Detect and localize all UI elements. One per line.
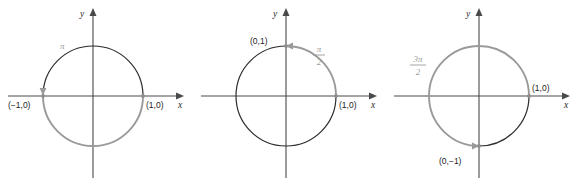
y-axis-label: y	[79, 9, 85, 19]
y-axis-label: y	[272, 9, 278, 19]
x-axis-label: x	[563, 100, 569, 110]
x-axis-arrowhead	[562, 93, 570, 100]
label-one-zero: (1,0)	[146, 100, 164, 110]
x-axis-label: x	[370, 100, 376, 110]
label-one-zero: (1,0)	[339, 100, 357, 110]
circle-outline-unswept	[479, 96, 529, 146]
label-neg-one-zero: (−1,0)	[8, 100, 31, 110]
arc-label-denominator: 2	[317, 57, 322, 67]
x-axis-arrowhead	[369, 93, 377, 100]
swept-arc-pi-over-2	[286, 46, 336, 96]
arc-label-denominator: 2	[416, 67, 421, 77]
label-one-zero: (1,0)	[532, 83, 550, 93]
point-dot-one-zero	[334, 94, 338, 98]
point-dot-one-zero	[527, 94, 531, 98]
panel-circle-3pi-over-2: (1,0) (0,−1) 3π 2 x y	[386, 0, 578, 189]
y-axis-arrowhead	[476, 8, 483, 16]
arc-label-numerator: 3π	[412, 54, 423, 64]
y-axis-arrowhead	[283, 8, 290, 16]
arc-label-pi: π	[60, 41, 65, 51]
label-zero-one: (0,1)	[250, 36, 268, 46]
point-dot-neg-one-zero	[41, 94, 45, 98]
unit-circle-figure: (−1,0) (1,0) π x y (0,1) (1,0) π	[0, 0, 578, 189]
arc-label-numerator: π	[317, 44, 322, 54]
panel-circle-pi: (−1,0) (1,0) π x y	[0, 0, 193, 189]
x-axis-label: x	[177, 100, 183, 110]
label-zero-neg-one: (0,−1)	[439, 156, 462, 166]
point-dot-zero-one	[284, 44, 288, 48]
y-axis-label: y	[465, 9, 471, 19]
point-dot-one-zero	[141, 94, 145, 98]
panel-circle-pi-over-2: (0,1) (1,0) π 2 x y	[193, 0, 386, 189]
x-axis-arrowhead	[176, 93, 184, 100]
point-dot-zero-neg-one	[477, 144, 481, 148]
y-axis-arrowhead	[90, 8, 97, 16]
